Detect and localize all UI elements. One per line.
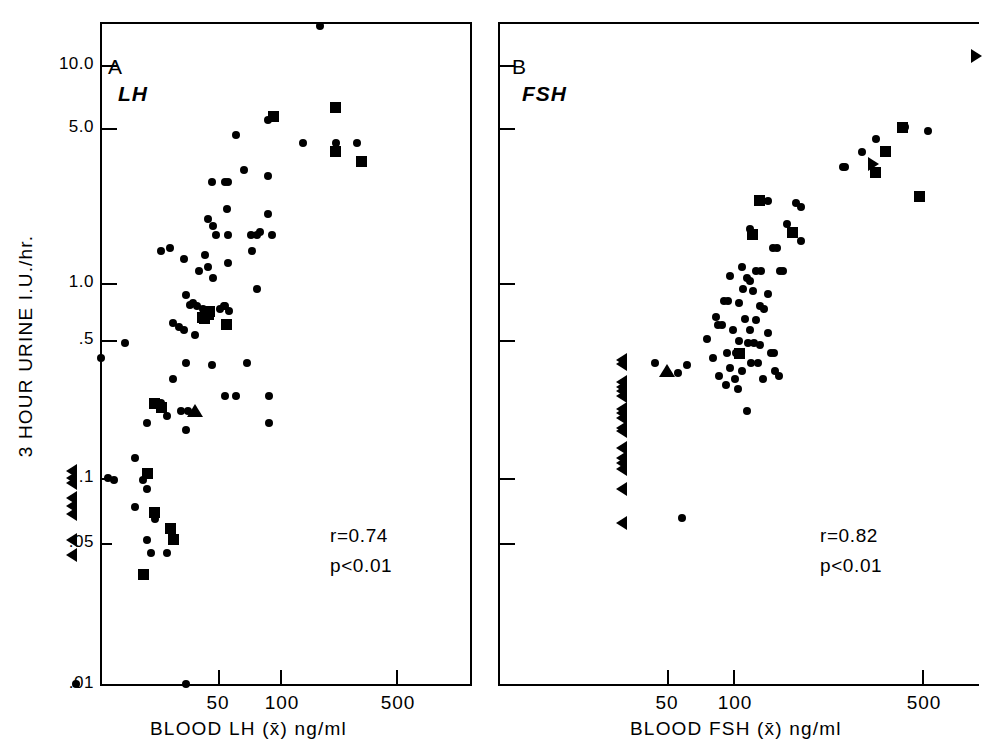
data-point-circle: [746, 326, 754, 334]
data-point-circle: [872, 135, 880, 143]
data-point-square: [138, 569, 149, 580]
data-point-square: [754, 195, 765, 206]
data-point-circle: [743, 407, 751, 415]
panelA-x-axis-title: BLOOD LH (x̄) ng/ml: [150, 718, 347, 740]
panelB-hormone: FSH: [522, 82, 567, 106]
data-point-circle: [224, 259, 232, 267]
data-point-circle: [726, 364, 734, 372]
panelB-ytick-1: [500, 283, 515, 285]
data-point-circle: [240, 166, 248, 174]
data-point-circle: [924, 127, 932, 135]
data-point-circle: [734, 385, 742, 393]
data-point-square: [221, 319, 232, 330]
data-point-tri-left: [66, 533, 77, 547]
data-point-circle: [353, 139, 361, 147]
data-point-circle: [723, 349, 731, 357]
panelA-xtick-100: [280, 670, 282, 686]
data-point-circle: [729, 326, 737, 334]
data-point-square: [734, 348, 745, 359]
panelA-right-border: [470, 22, 472, 686]
data-point-circle: [754, 359, 762, 367]
data-point-circle: [775, 372, 783, 380]
data-point-circle: [264, 172, 272, 180]
data-point-circle: [715, 372, 723, 380]
data-point-circle: [180, 255, 188, 263]
data-point-square: [356, 156, 367, 167]
data-point-circle: [248, 247, 256, 255]
data-point-circle: [182, 359, 190, 367]
data-point-circle: [752, 316, 760, 324]
data-point-circle: [718, 321, 726, 329]
data-point-circle: [746, 277, 754, 285]
data-point-circle: [741, 315, 749, 323]
data-point-circle: [773, 244, 781, 252]
data-point-tri-left: [66, 507, 77, 521]
data-point-square: [330, 146, 341, 157]
panelA-hormone: LH: [118, 82, 148, 106]
data-point-circle: [225, 307, 233, 315]
data-point-square: [168, 534, 179, 545]
data-point-tri-right: [868, 157, 879, 171]
data-point-circle: [797, 203, 805, 211]
ytick-label-p01: .01: [18, 673, 94, 693]
data-point-circle: [722, 381, 730, 389]
data-point-circle: [253, 285, 261, 293]
data-point-circle: [256, 228, 264, 236]
data-point-tri-left: [616, 357, 627, 371]
data-point-square: [156, 402, 167, 413]
data-point-circle: [131, 454, 139, 462]
data-point-circle: [147, 549, 155, 557]
data-point-square: [787, 227, 798, 238]
data-point-circle: [735, 299, 743, 307]
data-point-circle: [182, 680, 190, 688]
panelB-top-border: [498, 22, 979, 24]
data-point-circle: [221, 392, 229, 400]
data-point-square: [142, 468, 153, 479]
panelA-x-axis: [100, 684, 472, 686]
panelA-xtick-50: [218, 670, 220, 686]
panelB-xtick-500: [922, 670, 924, 686]
panelB-ytick-5: [500, 128, 515, 130]
panelB-x-axis-title: BLOOD FSH (x̄) ng/ml: [630, 718, 842, 740]
panelA-ytick-005: [102, 543, 112, 545]
data-point-circle: [749, 287, 757, 295]
data-point-circle: [208, 178, 216, 186]
data-point-square: [149, 507, 160, 518]
data-point-circle: [797, 237, 805, 245]
data-point-circle: [243, 359, 251, 367]
data-point-circle: [212, 231, 220, 239]
panelA-stat-r: r=0.74: [330, 525, 388, 547]
data-point-circle: [299, 139, 307, 147]
data-point-circle: [724, 297, 732, 305]
data-point-circle: [858, 148, 866, 156]
data-point-tri-left: [66, 476, 77, 490]
panelB-y-axis: [498, 22, 500, 686]
data-point-circle: [121, 339, 129, 347]
data-point-circle: [157, 247, 165, 255]
data-point-circle: [779, 267, 787, 275]
data-point-tri-up: [187, 404, 203, 417]
ytick-label-1: 1.0: [18, 272, 94, 292]
ytick-label-5: 5.0: [18, 117, 94, 137]
data-point-circle: [131, 503, 139, 511]
data-point-circle: [232, 392, 240, 400]
panelB-x-axis: [498, 684, 979, 686]
data-point-tri-left: [616, 516, 627, 530]
panelB-xtick-label-500: 500: [907, 692, 942, 714]
data-point-square: [880, 146, 891, 157]
data-point-circle: [764, 197, 772, 205]
data-point-circle: [143, 485, 151, 493]
data-point-circle: [182, 291, 190, 299]
ytick-label-10: 10.0: [18, 54, 94, 74]
data-point-tri-left: [66, 548, 77, 562]
data-point-tri-left: [616, 482, 627, 496]
panel-fsh: 50 100 500 BLOOD FSH (x̄) ng/ml B FSH r=…: [490, 0, 981, 743]
ytick-label-p05: .05: [18, 532, 94, 552]
data-point-circle: [739, 285, 747, 293]
data-point-square: [197, 312, 208, 323]
data-point-square: [914, 191, 925, 202]
data-point-circle: [760, 305, 768, 313]
ytick-label-p5: .5: [18, 329, 94, 349]
data-point-circle: [110, 476, 118, 484]
panelB-xtick-100: [733, 670, 735, 686]
